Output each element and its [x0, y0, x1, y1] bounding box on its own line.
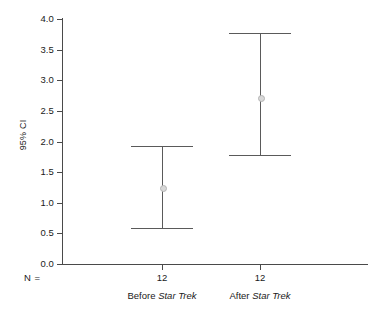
x-axis-tick [162, 265, 163, 270]
y-axis-tick-label: 2.5 [14, 106, 54, 116]
mean-marker [258, 95, 265, 102]
y-axis-tick-label: 2.0 [14, 137, 54, 147]
confidence-interval-chart: 95% CI 0.00.51.01.52.02.53.03.54.0 N = 1… [0, 0, 380, 323]
x-axis-n-value: 12 [127, 272, 197, 283]
y-axis-tick-label: 3.0 [14, 75, 54, 85]
y-axis-tick [57, 19, 62, 20]
y-axis-tick-label: 4.0 [14, 14, 54, 24]
y-axis-tick [57, 203, 62, 204]
y-axis-tick [57, 233, 62, 234]
y-axis-tick-label: 0.0 [14, 259, 54, 269]
y-axis-tick [57, 142, 62, 143]
y-axis-line [62, 18, 63, 265]
x-axis-line [62, 264, 368, 265]
mean-marker [160, 185, 167, 192]
y-axis-tick-label: 0.5 [14, 228, 54, 238]
errorbar-stem [260, 33, 261, 155]
x-axis-category-label: After Star Trek [195, 290, 325, 302]
y-axis-tick [57, 50, 62, 51]
y-axis-tick [57, 80, 62, 81]
category-label-prefix: After [229, 290, 252, 301]
errorbar-cap [131, 228, 193, 229]
errorbar-cap [131, 146, 193, 147]
errorbar-cap [229, 155, 291, 156]
y-axis-tick-label: 1.5 [14, 167, 54, 177]
y-axis-tick [57, 172, 62, 173]
y-axis-tick [57, 111, 62, 112]
x-axis-n-value: 12 [225, 272, 295, 283]
x-axis-tick [260, 265, 261, 270]
category-label-prefix: Before [128, 290, 159, 301]
n-equals-label: N = [24, 272, 41, 283]
category-label-title: Star Trek [158, 290, 196, 301]
y-axis-tick-label: 1.0 [14, 198, 54, 208]
category-label-title: Star Trek [252, 290, 290, 301]
errorbar-cap [229, 33, 291, 34]
y-axis-tick-label: 3.5 [14, 45, 54, 55]
